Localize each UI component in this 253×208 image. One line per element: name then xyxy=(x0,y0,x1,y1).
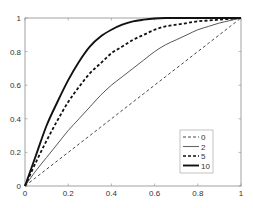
legend-label: 5 xyxy=(201,152,206,161)
x-tick-label: 0.6 xyxy=(149,189,161,198)
line-chart: 0 0.2 0.4 0.6 0.8 1 0 0.2 0.4 0.6 0.8 1 … xyxy=(0,0,253,208)
legend-label: 0 xyxy=(201,133,206,142)
x-axis-labels: 0 0.2 0.4 0.6 0.8 1 xyxy=(23,189,244,198)
y-tick-label: 0.2 xyxy=(10,148,22,157)
legend: 0 2 5 10 xyxy=(180,130,213,173)
y-tick-label: 0 xyxy=(17,182,22,191)
legend-label: 10 xyxy=(201,162,210,171)
y-axis-labels: 0 0.2 0.4 0.6 0.8 1 xyxy=(10,14,22,191)
x-tick-label: 0.8 xyxy=(192,189,204,198)
y-tick-label: 0.4 xyxy=(10,115,22,124)
y-tick-label: 0.6 xyxy=(10,81,22,90)
x-tick-label: 0 xyxy=(23,189,28,198)
y-tick-label: 0.8 xyxy=(10,48,22,57)
x-tick-label: 1 xyxy=(239,189,244,198)
x-tick-label: 0.2 xyxy=(63,189,75,198)
y-tick-label: 1 xyxy=(17,14,22,23)
legend-label: 2 xyxy=(201,143,206,152)
x-tick-label: 0.4 xyxy=(106,189,118,198)
